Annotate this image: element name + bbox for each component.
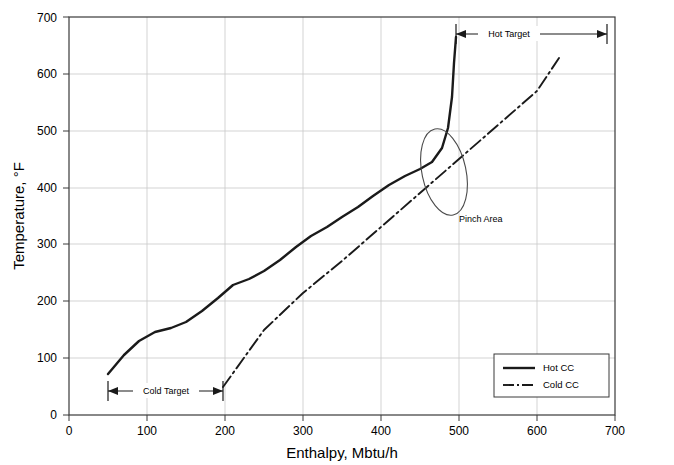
y-axis-title: Temperature, °F xyxy=(10,162,27,270)
x-tick-label-100: 100 xyxy=(137,424,157,438)
y-tick-label-500: 500 xyxy=(37,124,57,138)
cold-target-label: Cold Target xyxy=(143,386,189,396)
x-tick-label-400: 400 xyxy=(371,424,391,438)
pinch-area-label: Pinch Area xyxy=(459,214,503,224)
y-axis-ticks xyxy=(63,17,69,415)
x-tick-label-500: 500 xyxy=(449,424,469,438)
legend-label-cold-cc: Cold CC xyxy=(543,379,579,390)
x-tick-label-300: 300 xyxy=(293,424,313,438)
chart-container: 0 100 200 300 400 500 600 700 0 100 200 … xyxy=(0,0,674,465)
legend: Hot CC Cold CC xyxy=(494,354,609,397)
y-tick-label-300: 300 xyxy=(37,237,57,251)
x-tick-label-600: 600 xyxy=(527,424,547,438)
legend-label-hot-cc: Hot CC xyxy=(543,362,574,373)
x-axis-ticks xyxy=(69,415,615,421)
y-tick-label-600: 600 xyxy=(37,67,57,81)
x-axis-title: Enthalpy, Mbtu/h xyxy=(286,444,397,461)
hot-target-label: Hot Target xyxy=(488,29,530,39)
y-tick-label-100: 100 xyxy=(37,351,57,365)
y-tick-label-200: 200 xyxy=(37,294,57,308)
enthalpy-temperature-chart: 0 100 200 300 400 500 600 700 0 100 200 … xyxy=(0,0,674,465)
x-tick-label-200: 200 xyxy=(215,424,235,438)
y-tick-label-400: 400 xyxy=(37,181,57,195)
y-tick-label-0: 0 xyxy=(50,408,57,422)
x-tick-label-0: 0 xyxy=(66,424,73,438)
legend-box xyxy=(494,354,609,397)
x-tick-label-700: 700 xyxy=(605,424,625,438)
y-tick-label-700: 700 xyxy=(37,11,57,25)
